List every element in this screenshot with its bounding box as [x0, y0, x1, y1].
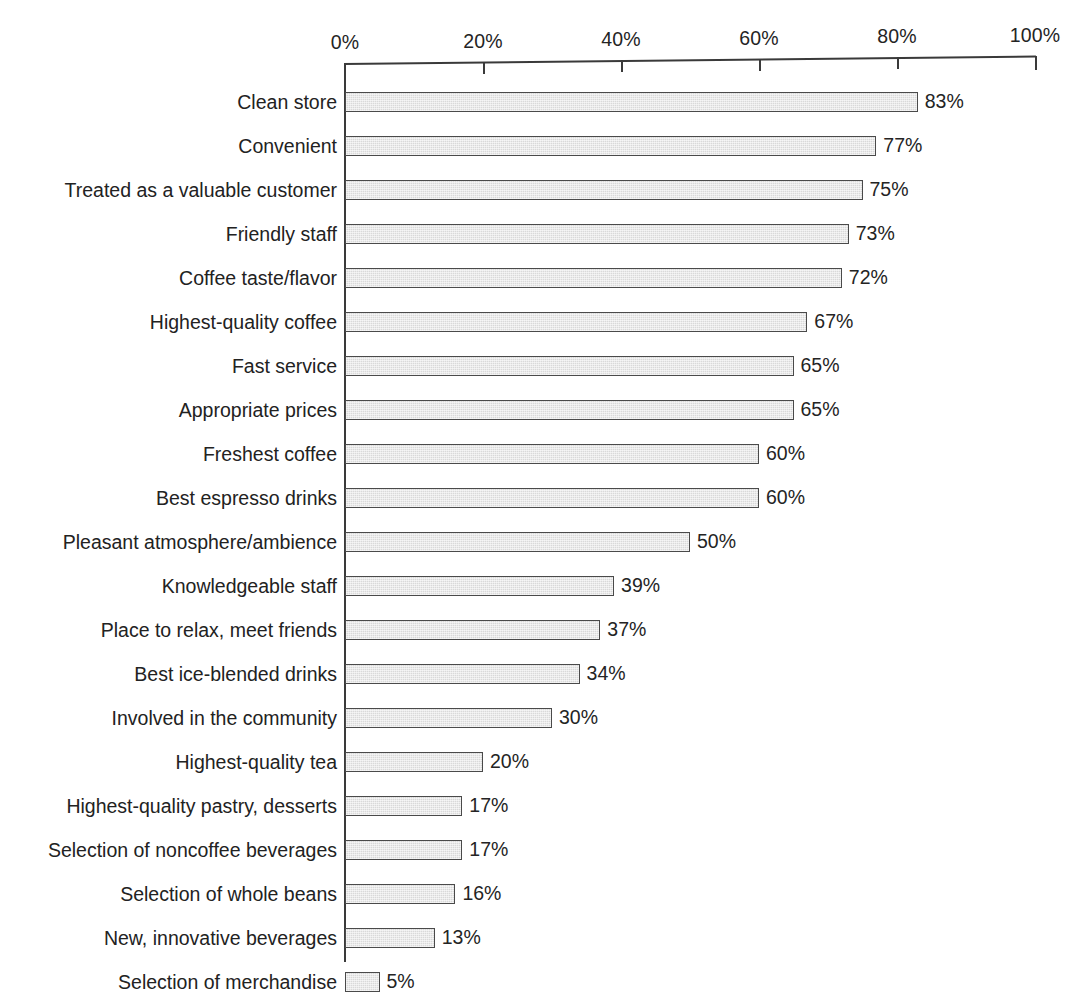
bar-value-label: 17%	[469, 796, 508, 816]
bar-value-label: 13%	[442, 928, 481, 948]
category-label: Fast service	[232, 355, 337, 377]
bar-row: New, innovative beverages13%	[0, 916, 1085, 960]
bar-row: Place to relax, meet friends37%	[0, 608, 1085, 652]
bar	[345, 664, 580, 684]
bar	[345, 224, 849, 244]
category-label: Best espresso drinks	[156, 487, 337, 509]
bar-value-label: 50%	[697, 532, 736, 552]
bar-row: Involved in the community30%	[0, 696, 1085, 740]
bar-row: Treated as a valuable customer75%	[0, 168, 1085, 212]
bar-row: Knowledgeable staff39%	[0, 564, 1085, 608]
bar-row: Highest-quality tea20%	[0, 740, 1085, 784]
bar-value-label: 77%	[883, 136, 922, 156]
bar-value-label: 16%	[462, 884, 501, 904]
bar	[345, 356, 794, 376]
bar-row: Best ice-blended drinks34%	[0, 652, 1085, 696]
category-label: Treated as a valuable customer	[65, 179, 337, 201]
bar-row: Pleasant atmosphere/ambience50%	[0, 520, 1085, 564]
bar-value-label: 37%	[607, 620, 646, 640]
bar-row: Appropriate prices65%	[0, 388, 1085, 432]
category-label: Highest-quality pastry, desserts	[66, 795, 337, 817]
bar	[345, 840, 462, 860]
bar	[345, 444, 759, 464]
bar-value-label: 75%	[870, 180, 909, 200]
category-label: Coffee taste/flavor	[179, 267, 337, 289]
bar-row: Coffee taste/flavor72%	[0, 256, 1085, 300]
bar-value-label: 65%	[801, 400, 840, 420]
bar	[345, 136, 876, 156]
category-label: Convenient	[238, 135, 337, 157]
category-label: Selection of whole beans	[120, 883, 337, 905]
bar-value-label: 65%	[801, 356, 840, 376]
bar	[345, 312, 807, 332]
bar-value-label: 39%	[621, 576, 660, 596]
category-label: Highest-quality coffee	[150, 311, 337, 333]
category-label: Appropriate prices	[179, 399, 337, 421]
category-label: Pleasant atmosphere/ambience	[63, 531, 337, 553]
bar	[345, 928, 435, 948]
bar	[345, 400, 794, 420]
category-label: Place to relax, meet friends	[101, 619, 337, 641]
bar-value-label: 60%	[766, 488, 805, 508]
bar-row: Highest-quality coffee67%	[0, 300, 1085, 344]
category-label: Highest-quality tea	[175, 751, 337, 773]
bar	[345, 576, 614, 596]
category-label: Selection of noncoffee beverages	[48, 839, 337, 861]
bar	[345, 488, 759, 508]
bar-value-label: 83%	[925, 92, 964, 112]
bar-value-label: 30%	[559, 708, 598, 728]
bar	[345, 268, 842, 288]
bar-value-label: 34%	[587, 664, 626, 684]
bar-row: Friendly staff73%	[0, 212, 1085, 256]
bar-value-label: 67%	[814, 312, 853, 332]
bar-value-label: 60%	[766, 444, 805, 464]
bar-row: Selection of merchandise5%	[0, 960, 1085, 996]
category-label: Best ice-blended drinks	[134, 663, 337, 685]
bar	[345, 884, 455, 904]
bar	[345, 796, 462, 816]
bar-value-label: 20%	[490, 752, 529, 772]
category-label: Freshest coffee	[203, 443, 337, 465]
bar-row: Highest-quality pastry, desserts17%	[0, 784, 1085, 828]
bar-value-label: 73%	[856, 224, 895, 244]
bar	[345, 620, 600, 640]
bar-row: Fast service65%	[0, 344, 1085, 388]
bar	[345, 752, 483, 772]
bar	[345, 708, 552, 728]
bar-row: Selection of whole beans16%	[0, 872, 1085, 916]
bar-row: Clean store83%	[0, 80, 1085, 124]
bar-row: Best espresso drinks60%	[0, 476, 1085, 520]
bar	[345, 92, 918, 112]
bar	[345, 972, 380, 992]
bar-value-label: 72%	[849, 268, 888, 288]
bar-row: Convenient77%	[0, 124, 1085, 168]
category-label: Clean store	[237, 91, 337, 113]
bar-row: Freshest coffee60%	[0, 432, 1085, 476]
category-label: Involved in the community	[112, 707, 337, 729]
category-label: New, innovative beverages	[104, 927, 337, 949]
category-label: Knowledgeable staff	[162, 575, 337, 597]
bar	[345, 532, 690, 552]
bar-row: Selection of noncoffee beverages17%	[0, 828, 1085, 872]
bar-value-label: 17%	[469, 840, 508, 860]
category-label: Selection of merchandise	[118, 971, 337, 993]
category-label: Friendly staff	[226, 223, 337, 245]
bar-value-label: 5%	[387, 972, 415, 992]
bar	[345, 180, 863, 200]
